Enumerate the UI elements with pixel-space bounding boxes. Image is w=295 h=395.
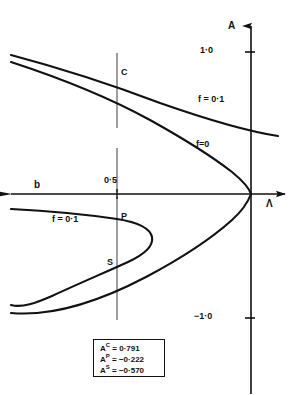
- legend-superscript: S: [106, 364, 110, 370]
- curve-f0-upper: [11, 62, 251, 194]
- curve-f01-lower: [11, 209, 152, 306]
- legend-superscript: P: [106, 353, 110, 359]
- legend-value: = −0·570: [112, 366, 144, 375]
- curve-f01-upper: [11, 55, 278, 136]
- curve-label-f01-upper: f = 0·1: [198, 95, 224, 104]
- legend-value: = 0·791: [112, 344, 139, 353]
- plot-canvas: [0, 0, 295, 395]
- legend-row: AS = −0·570: [100, 365, 164, 376]
- point-label-p: P: [121, 212, 127, 221]
- legend-box: AC = 0·791 AP = −0·222 AS = −0·570: [93, 339, 165, 377]
- curve-label-f0: f=0: [196, 140, 209, 149]
- bifurcation-diagram-figure: A Λ b 1·0 −1·0 0·5 f = 0·1 f=0 f = 0·1 C…: [0, 0, 295, 395]
- legend-row: AP = −0·222: [100, 354, 164, 365]
- legend-superscript: C: [106, 342, 110, 348]
- y-tick-label-one: 1·0: [200, 46, 213, 55]
- y-axis-label: A: [228, 21, 235, 31]
- legend-row: AC = 0·791: [100, 343, 164, 354]
- legend-value: = −0·222: [112, 355, 144, 364]
- curve-label-f01-lower: f = 0·1: [52, 215, 78, 224]
- x-direction-label: b: [34, 180, 40, 190]
- x-tick-label-half: 0·5: [104, 176, 117, 185]
- point-label-c: C: [121, 68, 128, 77]
- y-tick-label-minus-one: −1·0: [194, 312, 212, 321]
- point-label-s: S: [107, 258, 113, 267]
- x-axis-label: Λ: [266, 199, 273, 209]
